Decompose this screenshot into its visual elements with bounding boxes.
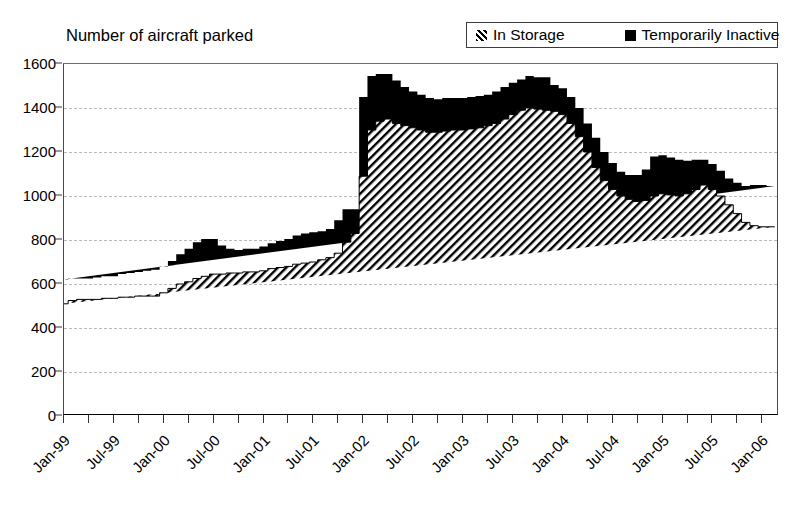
x-axis-tick-label: Jul-99	[72, 432, 122, 482]
x-axis-tick-label: Jul-02	[371, 432, 421, 482]
x-axis-tick-label: Jan-06	[720, 432, 770, 482]
chart-root: In Storage Temporarily Inactive Number o…	[0, 0, 806, 508]
x-axis-labels: Jan-99Jul-99Jan-00Jul-00Jan-01Jul-01Jan-…	[0, 0, 806, 508]
x-axis-tick-label: Jan-04	[521, 432, 571, 482]
x-axis-tick-label: Jan-05	[621, 432, 671, 482]
x-axis-tick-label: Jan-01	[222, 432, 272, 482]
x-axis-tick-label: Jan-02	[321, 432, 371, 482]
x-axis-tick-label: Jan-99	[22, 432, 72, 482]
x-axis-tick-label: Jul-01	[272, 432, 322, 482]
x-axis-tick-label: Jan-00	[122, 432, 172, 482]
x-axis-tick-label: Jul-04	[571, 432, 621, 482]
x-axis-tick-label: Jan-03	[421, 432, 471, 482]
x-axis-tick-label: Jul-00	[172, 432, 222, 482]
x-axis-tick-label: Jul-05	[671, 432, 721, 482]
x-axis-tick-label: Jul-03	[471, 432, 521, 482]
